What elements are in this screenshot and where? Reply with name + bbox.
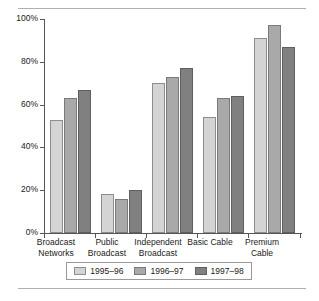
bar-basic-cable-1996-97 <box>217 98 230 233</box>
legend-item-1996-97: 1996–97 <box>134 266 183 276</box>
bar-group-basic-cable <box>203 19 248 233</box>
bar-premium-cable-1995-96 <box>254 38 267 233</box>
bar-group-independent-broadcast <box>152 19 197 233</box>
bar-basic-cable-1997-98 <box>231 96 244 233</box>
y-tick-label-3: 60% <box>21 99 38 110</box>
y-tick-label-2: 40% <box>21 141 38 152</box>
x-axis-line <box>44 233 302 234</box>
x-category-label-premium-cable: Premium Cable <box>234 237 290 258</box>
bar-independent-broadcast-1995-96 <box>152 83 165 233</box>
plot-area: 0% 20% 40% 60% 80% 100% <box>44 19 302 234</box>
bar-group-broadcast-networks <box>50 19 95 233</box>
legend-swatch-icon-1995-96 <box>74 267 86 275</box>
legend-swatch-icon-1997-98 <box>195 267 207 275</box>
legend-label-1997-98: 1997–98 <box>211 266 244 276</box>
bar-public-broadcast-1997-98 <box>129 190 142 233</box>
bar-public-broadcast-1995-96 <box>101 194 114 233</box>
legend-item-1995-96: 1995–96 <box>74 266 123 276</box>
bar-chart-figure: 0% 20% 40% 60% 80% 100% <box>0 0 319 301</box>
bar-broadcast-networks-1995-96 <box>50 120 63 233</box>
y-tick-label-5: 100% <box>16 13 38 24</box>
bar-basic-cable-1995-96 <box>203 117 216 233</box>
bar-broadcast-networks-1996-97 <box>64 98 77 233</box>
x-category-label-basic-cable: Basic Cable <box>181 237 239 248</box>
bar-group-premium-cable <box>254 19 299 233</box>
y-tick-label-1: 20% <box>21 184 38 195</box>
x-category-label-broadcast-networks: Broadcast Networks <box>28 237 84 258</box>
legend-item-1997-98: 1997–98 <box>195 266 244 276</box>
y-axis-line <box>44 19 45 234</box>
bottom-divider-rule <box>18 288 306 289</box>
legend-swatch-icon-1996-97 <box>134 267 146 275</box>
bar-group-public-broadcast <box>101 19 146 233</box>
x-tick-5 <box>300 234 301 238</box>
bar-public-broadcast-1996-97 <box>115 199 128 233</box>
bar-broadcast-networks-1997-98 <box>78 90 91 233</box>
bar-premium-cable-1997-98 <box>282 47 295 233</box>
legend-label-1995-96: 1995–96 <box>90 266 123 276</box>
chart-legend: 1995–96 1996–97 1997–98 <box>66 262 252 280</box>
bar-premium-cable-1996-97 <box>268 25 281 233</box>
y-tick-label-4: 80% <box>21 56 38 67</box>
top-divider-rule <box>18 8 306 9</box>
bar-independent-broadcast-1996-97 <box>166 77 179 233</box>
legend-label-1996-97: 1996–97 <box>150 266 183 276</box>
bar-independent-broadcast-1997-98 <box>180 68 193 233</box>
